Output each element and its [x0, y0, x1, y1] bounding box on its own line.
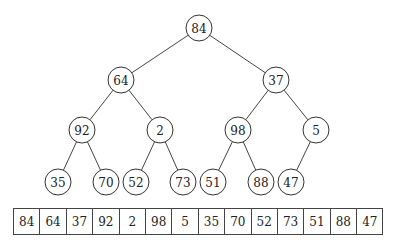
tree-edge	[219, 142, 233, 171]
tree-edge	[90, 90, 113, 119]
tree-edge	[129, 90, 152, 119]
array-cell: 70	[225, 209, 251, 234]
tree-node: 73	[170, 169, 196, 195]
array-representation: 84643792298535705273518847	[13, 208, 383, 235]
array-cell: 35	[199, 209, 225, 234]
tree-node: 70	[93, 169, 119, 195]
tree-edge	[246, 90, 268, 119]
tree-edge	[63, 142, 76, 170]
array-cell: 64	[40, 209, 66, 234]
tree-nodes: 84643792298535705273518847	[45, 15, 329, 195]
node-value: 73	[175, 176, 190, 190]
tree-edge	[284, 90, 308, 120]
tree-edge	[243, 142, 255, 170]
tree-node: 88	[248, 169, 274, 195]
tree-node: 47	[278, 169, 304, 195]
node-value: 98	[230, 124, 245, 138]
node-value: 47	[283, 176, 298, 190]
array-cell: 37	[67, 209, 93, 234]
node-value: 5	[312, 124, 320, 138]
tree-node: 64	[108, 67, 134, 93]
array-cell: 73	[278, 209, 304, 234]
node-value: 2	[156, 124, 164, 138]
array-cell: 52	[252, 209, 278, 234]
node-value: 70	[98, 176, 113, 190]
tree-edges	[63, 35, 310, 170]
tree-edge	[87, 142, 100, 170]
node-value: 88	[253, 176, 268, 190]
node-value: 92	[74, 124, 89, 138]
tree-node: 37	[263, 67, 289, 93]
tree-node: 98	[225, 117, 251, 143]
array-cell: 98	[146, 209, 172, 234]
node-value: 52	[128, 176, 143, 190]
node-value: 35	[50, 176, 65, 190]
array-cell: 88	[331, 209, 357, 234]
array-cell: 47	[357, 209, 382, 234]
tree-node: 35	[45, 169, 71, 195]
tree-node: 52	[123, 169, 149, 195]
tree-node: 92	[69, 117, 95, 143]
tree-edge	[132, 35, 188, 73]
array-cell: 84	[14, 209, 40, 234]
tree-node: 51	[200, 169, 226, 195]
array-cell: 5	[172, 209, 198, 234]
tree-node: 5	[303, 117, 329, 143]
tree-node: 84	[186, 15, 212, 41]
tree-edge	[297, 142, 311, 171]
node-value: 64	[113, 74, 129, 88]
array-cell: 92	[93, 209, 119, 234]
array-cell: 2	[120, 209, 146, 234]
array-cell: 51	[304, 209, 330, 234]
tree-edge	[210, 35, 265, 72]
node-value: 51	[205, 176, 220, 190]
tree-node: 2	[147, 117, 173, 143]
tree-edge	[141, 142, 154, 170]
tree-edge	[165, 142, 177, 170]
node-value: 84	[191, 22, 207, 36]
node-value: 37	[268, 74, 283, 88]
